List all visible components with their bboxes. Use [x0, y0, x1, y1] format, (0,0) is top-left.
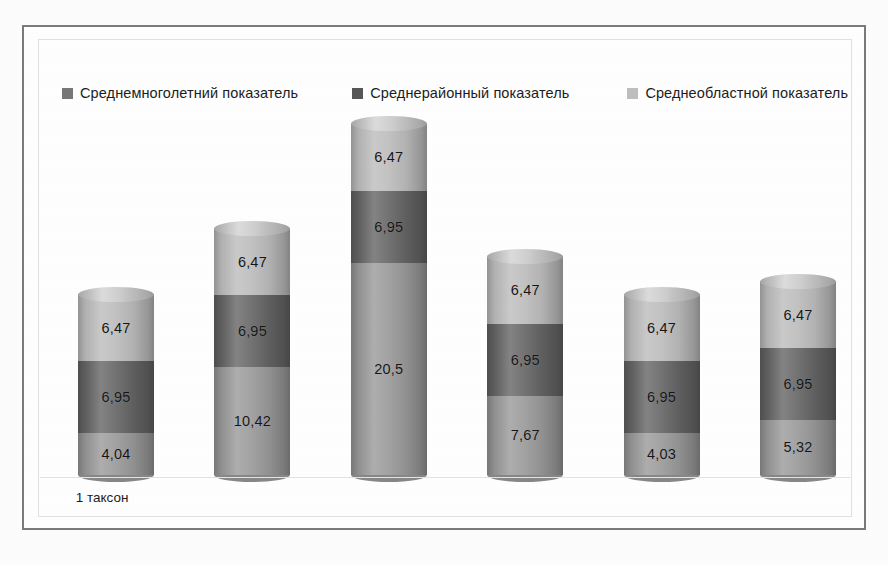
legend-item-srednemnogoletniy[interactable]: Среднемноголетний показатель — [62, 85, 298, 101]
stacked-cylinder: 4,046,956,47 — [78, 294, 154, 475]
bar-value-label: 6,95 — [101, 389, 130, 405]
stacked-cylinder: 4,036,956,47 — [624, 294, 700, 475]
legend-item-label: Среднеобластной показатель — [645, 85, 848, 101]
bar-value-label: 6,47 — [238, 254, 267, 270]
bar-value-label: 5,32 — [783, 439, 812, 455]
stacked-cylinder: 20,56,956,47 — [351, 124, 427, 475]
stacked-cylinder: 7,676,956,47 — [487, 257, 563, 475]
cylinder-segment: 4,04 — [78, 433, 154, 475]
cylinder-segment: 6,95 — [214, 295, 290, 367]
cylinder-segment: 5,32 — [760, 420, 836, 475]
cylinder-segment: 6,95 — [351, 191, 427, 263]
legend-item-srednerayonniy[interactable]: Среднерайонный показатель — [352, 85, 569, 101]
legend-item-label: Среднерайонный показатель — [370, 85, 569, 101]
bar-value-label: 6,47 — [647, 320, 676, 336]
chart-category-labels: 1 таксон — [40, 484, 852, 510]
bar-value-label: 6,95 — [647, 389, 676, 405]
cylinder-segment: 7,67 — [487, 396, 563, 475]
legend-item-label: Среднемноголетний показатель — [80, 85, 298, 101]
cylinder-segment: 10,42 — [214, 367, 290, 475]
cylinder-segment: 20,5 — [351, 263, 427, 475]
cylinder-segment: 6,95 — [624, 361, 700, 433]
cylinder-segment: 6,95 — [760, 348, 836, 420]
category-label-1: 1 таксон — [27, 490, 177, 505]
cylinder-segment: 6,47 — [78, 294, 154, 361]
bar-value-label: 6,95 — [238, 323, 267, 339]
bar-value-label: 6,47 — [511, 282, 540, 298]
bar-value-label: 6,95 — [783, 376, 812, 392]
cylinder-segment: 6,95 — [78, 361, 154, 433]
cylinder-segment: 6,47 — [351, 124, 427, 191]
legend-swatch-icon — [352, 88, 363, 99]
legend-swatch-icon — [627, 88, 638, 99]
bar-value-label: 6,95 — [374, 219, 403, 235]
bar-value-label: 6,47 — [101, 320, 130, 336]
legend-item-sredneoblastnoy[interactable]: Среднеобластной показатель — [627, 85, 848, 101]
bar-value-label: 4,03 — [647, 446, 676, 462]
cylinder-segment: 6,47 — [624, 294, 700, 361]
bar-value-label: 20,5 — [374, 361, 403, 377]
bar-value-label: 10,42 — [234, 413, 271, 429]
bar-value-label: 7,67 — [511, 427, 540, 443]
cylinder-segment: 4,03 — [624, 433, 700, 475]
bar-value-label: 4,04 — [101, 446, 130, 462]
bar-value-label: 6,95 — [511, 352, 540, 368]
chart-axis-line — [40, 477, 852, 478]
cylinder-segment: 6,47 — [760, 281, 836, 348]
stacked-cylinder: 5,326,956,47 — [760, 281, 836, 475]
legend-swatch-icon — [62, 88, 73, 99]
stacked-cylinder: 10,426,956,47 — [214, 228, 290, 475]
cylinder-segment: 6,47 — [487, 257, 563, 324]
cylinder-segment: 6,47 — [214, 228, 290, 295]
bar-value-label: 6,47 — [374, 149, 403, 165]
bar-value-label: 6,47 — [783, 307, 812, 323]
chart-outer-frame: Среднемноголетний показатель Среднерайон… — [22, 25, 866, 530]
chart-legend: Среднемноголетний показатель Среднерайон… — [40, 85, 852, 101]
cylinder-segment: 6,95 — [487, 324, 563, 396]
chart-plot-area: 4,046,956,4710,426,956,4720,56,956,477,6… — [40, 123, 852, 475]
chart-bars-row: 4,046,956,4710,426,956,4720,56,956,477,6… — [40, 123, 852, 475]
